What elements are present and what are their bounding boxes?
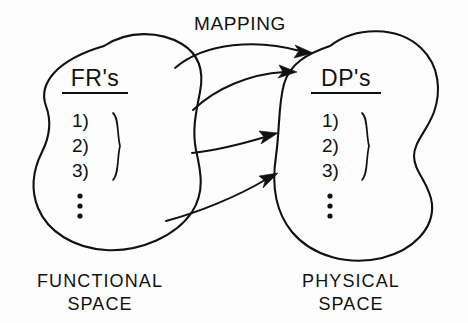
left-grouping-brace — [113, 113, 120, 180]
right-grouping-brace — [362, 113, 369, 180]
mapping-label: MAPPING — [194, 13, 286, 34]
functional-space-caption-line2: SPACE — [67, 294, 132, 314]
mapping-arrows-group — [166, 44, 313, 221]
functional-space-caption-line1: FUNCTIONAL — [37, 271, 163, 291]
axiomatic-design-mapping-figure: FR's 1) 2) 3) DP's 1) 2) 3) — [0, 0, 468, 323]
right-item-2: 2) — [322, 135, 339, 156]
right-item-3: 3) — [322, 160, 339, 181]
left-set-title: FR's — [71, 65, 120, 91]
left-item-3: 3) — [72, 160, 89, 181]
physical-space-caption: PHYSICAL SPACE — [302, 271, 400, 314]
right-ellipsis — [327, 193, 332, 218]
right-set-title: DP's — [321, 65, 371, 91]
functional-space-caption: FUNCTIONAL SPACE — [37, 271, 163, 314]
left-item-1: 1) — [72, 110, 89, 131]
right-item-1: 1) — [322, 110, 339, 131]
mapping-arrow-4 — [166, 173, 278, 221]
mapping-arrow-3 — [192, 131, 278, 153]
left-ellipsis — [77, 193, 82, 218]
physical-space-caption-line2: SPACE — [318, 294, 383, 314]
physical-space-caption-line1: PHYSICAL — [302, 271, 400, 291]
left-item-2: 2) — [72, 135, 89, 156]
